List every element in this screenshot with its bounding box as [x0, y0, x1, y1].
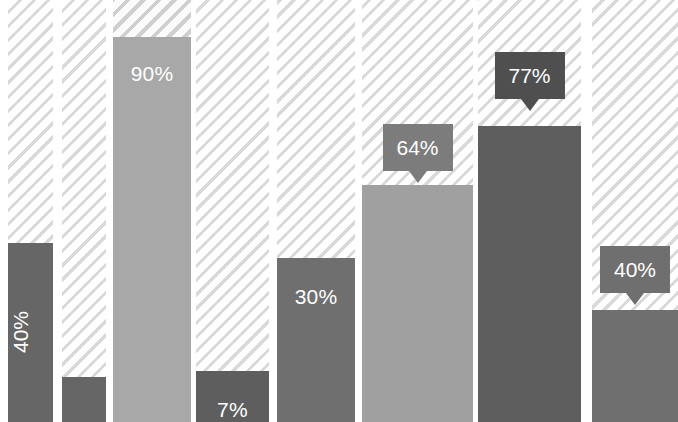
bar-track-2: [62, 0, 106, 422]
bar-fill-7[interactable]: [478, 126, 581, 422]
bar-fill-5[interactable]: 30%: [277, 258, 355, 422]
bar-group-5[interactable]: 30%: [277, 0, 355, 422]
callout-tail-icon-8: [626, 293, 644, 305]
bar-group-4[interactable]: 7%: [196, 0, 269, 422]
progress-bar-chart: 40% 10% 90% 7% 30% 64%: [0, 0, 678, 422]
bar-fill-6[interactable]: [362, 185, 473, 422]
bar-value-label-8: 40%: [614, 258, 656, 281]
bar-group-3[interactable]: 90%: [113, 0, 191, 422]
bar-group-7[interactable]: 77%: [478, 0, 581, 422]
bar-group-6[interactable]: 64%: [362, 0, 473, 422]
bar-value-label-4: 7%: [196, 399, 269, 420]
bar-value-callout-8[interactable]: 40%: [600, 246, 670, 293]
bar-track-4: [196, 0, 269, 422]
bar-group-1[interactable]: 40%: [8, 0, 53, 422]
bar-value-label-1: 40%: [9, 311, 30, 353]
bar-fill-3[interactable]: 90%: [113, 37, 191, 422]
callout-tail-icon-7: [521, 99, 539, 111]
bar-value-label-6: 64%: [396, 136, 438, 159]
callout-tail-icon-6: [409, 171, 427, 183]
bar-fill-4[interactable]: 7%: [196, 371, 269, 422]
bar-fill-2[interactable]: 10%: [62, 377, 106, 422]
bar-fill-1[interactable]: 40%: [8, 243, 53, 422]
bar-group-8[interactable]: 40%: [592, 0, 678, 422]
bar-value-label-3: 90%: [113, 63, 191, 84]
bar-value-callout-7[interactable]: 77%: [494, 52, 564, 99]
bar-value-label-5: 30%: [277, 286, 355, 307]
bar-group-2[interactable]: 10%: [62, 0, 106, 422]
bar-fill-8[interactable]: [592, 310, 678, 422]
bar-value-callout-6[interactable]: 64%: [382, 124, 452, 171]
bar-value-label-7: 77%: [508, 64, 550, 87]
